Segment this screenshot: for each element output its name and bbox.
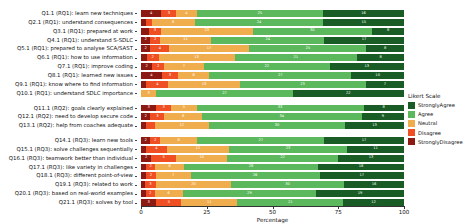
segment-value: 16 <box>361 12 366 16</box>
y-axis-label: Q15.1 (RQ3): solve challenges sequential… <box>17 146 133 153</box>
segment-value: 21 <box>294 56 299 60</box>
legend-swatch-icon <box>408 129 415 136</box>
segment-value: 17 <box>207 47 212 51</box>
bar-segment-stronglyagree: 11 <box>347 146 404 153</box>
segment-value: 4 <box>185 12 187 16</box>
legend-item[interactable]: Neutral <box>408 120 474 127</box>
bar-segment-disagree <box>146 122 155 129</box>
segment-value: 3 <box>147 92 149 96</box>
bar-segment-agree: 21 <box>237 199 343 206</box>
bar-segment-agree: 27 <box>197 137 324 144</box>
segment-value: 11 <box>373 147 378 151</box>
legend-item[interactable]: Agree <box>408 111 474 118</box>
segment-value: 13 <box>372 124 377 128</box>
segment-value: 8 <box>387 29 389 33</box>
legend-item[interactable]: StronglyDisagree <box>408 138 474 145</box>
segment-value: 22 <box>264 65 269 69</box>
bar-segment-stronglyagree: 16 <box>323 10 404 17</box>
segment-value: 24 <box>266 38 271 42</box>
bar-row: 3203016 <box>141 181 404 188</box>
bar-segment-stronglyagree: 22 <box>293 90 404 97</box>
segment-value: 27 <box>258 139 263 143</box>
segment-value: 28 <box>249 165 254 169</box>
bar-segment-stronglyagree: 17 <box>320 172 404 179</box>
y-axis-tick <box>135 176 138 177</box>
y-axis-label: Q9.1 (RQ1): know where to find informati… <box>15 81 133 88</box>
bar-segment-neutral: 13 <box>159 54 235 61</box>
bar-segment-agree: 30 <box>231 181 344 188</box>
segment-value: 26 <box>253 174 258 178</box>
segment-value: 2 <box>154 139 156 143</box>
segment-value: 20 <box>191 183 196 187</box>
segment-value: 6 <box>168 192 170 196</box>
bar-segment-stronglyagree: 12 <box>343 199 404 206</box>
y-axis-label: Q12.1 (RQ2): need to develop secure code <box>18 113 133 120</box>
legend-item[interactable]: Disagree <box>408 129 474 136</box>
segment-value: 10 <box>375 74 380 78</box>
bar-segment-agree: 24 <box>211 37 324 44</box>
y-axis-tick <box>135 13 138 14</box>
y-axis-tick <box>135 108 138 109</box>
bar-segment-stronglydisagree: 2 <box>141 155 151 162</box>
bar-segment-neutral: 12 <box>167 146 229 153</box>
bar-segment-stronglydisagree: 2 <box>141 37 150 44</box>
bar-row: 22112417 <box>141 37 404 44</box>
likert-stacked-bar-chart: Q1.1 (RQ1): learn new techniquesQ2.1 (RQ… <box>0 0 476 224</box>
segment-value: 15 <box>361 21 366 25</box>
y-axis-tick <box>135 67 138 68</box>
bar-segment-agree: 26 <box>191 172 320 179</box>
legend-swatch-icon <box>408 102 415 109</box>
bar-row: 213218 <box>141 54 404 61</box>
bar-segment-disagree: 4 <box>146 146 167 153</box>
segment-value: 9 <box>382 115 384 119</box>
segment-value: 3 <box>169 74 171 78</box>
segment-value: 30 <box>275 124 280 128</box>
plot-area: 4342516824153233082211241724172582132182… <box>141 10 404 206</box>
y-axis-tick <box>135 194 138 195</box>
legend-item[interactable]: StronglyAgree <box>408 102 474 109</box>
bar-segment-stronglyagree: 13 <box>338 155 404 162</box>
y-axis-label: Q21.1 (RQ3): solves by tool <box>59 199 133 206</box>
segment-value: 3 <box>154 29 156 33</box>
segment-value: 34 <box>280 115 285 119</box>
bar-row: 262818 <box>141 164 404 171</box>
bar-segment-neutral: 8 <box>164 113 202 120</box>
bar-segment-disagree: 3 <box>161 10 176 17</box>
segment-value: 8 <box>182 115 184 119</box>
x-axis-tick-label: 25 <box>203 209 210 215</box>
bar-row: 4362710 <box>141 72 404 79</box>
bar-segment-disagree: 4 <box>146 81 168 88</box>
bar-segment-stronglyagree: 8 <box>372 28 404 35</box>
segment-value: 4 <box>159 47 161 51</box>
segment-value: 18 <box>359 165 364 169</box>
y-axis-tick <box>135 84 138 85</box>
bar-segment-stronglydisagree: 4 <box>141 10 161 17</box>
bar-segment-agree: 21 <box>235 54 358 61</box>
segment-value: 5 <box>183 106 185 110</box>
segment-value: 4 <box>155 147 157 151</box>
segment-value: 23 <box>204 29 209 33</box>
bar-row: 272617 <box>141 172 404 179</box>
segment-value: 21 <box>288 201 293 205</box>
segment-value: 27 <box>278 74 283 78</box>
segment-value: 2 <box>145 47 147 51</box>
bar-rows: 4342516824153233082211241724172582132182… <box>141 10 404 206</box>
bar-row: 335338 <box>141 105 404 112</box>
bar-row: 2417258 <box>141 45 404 52</box>
segment-value: 8 <box>383 106 385 110</box>
segment-value: 22 <box>346 92 351 96</box>
segment-value: 3 <box>156 115 158 119</box>
bar-segment-neutral: 5 <box>171 105 196 112</box>
legend-label: Disagree <box>418 130 441 136</box>
segment-value: 6 <box>192 74 194 78</box>
bar-segment-neutral: 6 <box>155 190 183 197</box>
bar-segment-agree: 25 <box>197 10 323 17</box>
bar-row: 32722 <box>141 90 404 97</box>
bar-segment-neutral: 11 <box>181 199 237 206</box>
bar-segment-disagree: 3 <box>149 28 161 35</box>
bar-segment-neutral: 3 <box>141 90 156 97</box>
bar-row: 238349 <box>141 113 404 120</box>
bar-segment-stronglyagree: 18 <box>318 164 404 171</box>
y-axis-label: Q7.1 (RQ1): improve coding <box>58 63 134 70</box>
segment-value: 13 <box>365 65 370 69</box>
